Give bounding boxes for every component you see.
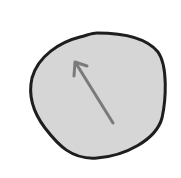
blob-shape: [31, 33, 166, 158]
diagram-svg: [0, 0, 181, 178]
diagram-canvas: [0, 0, 181, 178]
